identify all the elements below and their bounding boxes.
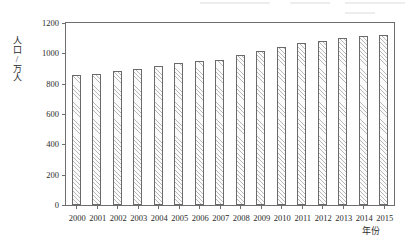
x-axis-title: 年份 (362, 226, 380, 237)
x-axis-tick-label: 2013 (335, 213, 352, 224)
x-axis-tick: 2014 (363, 205, 364, 209)
x-axis-tick: 2004 (158, 205, 159, 209)
x-axis-tick: 2003 (138, 205, 139, 209)
x-axis-tick: 2011 (302, 205, 303, 209)
x-axis-tick-label: 2014 (356, 213, 373, 224)
x-axis-tick: 2007 (220, 205, 221, 209)
bar (379, 35, 388, 205)
x-axis-tick-label: 2004 (151, 213, 168, 224)
x-axis-tick: 2012 (322, 205, 323, 209)
x-axis-tick-label: 2015 (376, 213, 393, 224)
x-axis-tick-label: 2002 (110, 213, 127, 224)
x-axis-tick: 2005 (179, 205, 180, 209)
bar (195, 61, 204, 205)
bar (359, 36, 368, 205)
bar (215, 60, 224, 205)
y-axis-tick-label: 200 (46, 170, 59, 181)
y-axis-tick-label: 800 (46, 79, 59, 90)
x-axis-tick: 2001 (97, 205, 98, 209)
y-axis-tick-label: 0 (55, 200, 59, 211)
y-axis-tick: 600 (62, 114, 66, 115)
x-axis-tick-label: 2001 (89, 213, 106, 224)
x-axis-tick-label: 2010 (274, 213, 291, 224)
x-axis-tick-label: 2006 (192, 213, 209, 224)
bar (113, 71, 122, 205)
y-axis-tick: 1000 (62, 53, 66, 54)
x-axis-tick: 2002 (117, 205, 118, 209)
x-axis-tick-label: 2009 (253, 213, 270, 224)
x-axis-tick: 2013 (343, 205, 344, 209)
bar (174, 63, 183, 205)
y-axis-tick-label: 400 (46, 139, 59, 150)
bar (338, 38, 347, 205)
bar (277, 47, 286, 205)
bar (92, 74, 101, 205)
y-axis-tick: 200 (62, 175, 66, 176)
x-axis-tick-label: 2008 (233, 213, 250, 224)
bar (236, 55, 245, 205)
x-axis-tick-label: 2005 (171, 213, 188, 224)
bar (256, 51, 265, 205)
y-axis-title: 人口/万人 (8, 36, 22, 82)
x-axis-tick-label: 2011 (294, 213, 311, 224)
x-axis-tick-label: 2007 (212, 213, 229, 224)
bar-chart-figure: 人口/万人 0200400600800100012002000200120022… (0, 0, 418, 247)
bar (297, 43, 306, 205)
x-axis-tick: 2009 (261, 205, 262, 209)
bar-series (66, 23, 394, 205)
x-axis-tick: 2000 (76, 205, 77, 209)
plot-area: 0200400600800100012002000200120022003200… (65, 22, 395, 206)
x-axis-tick-label: 2003 (130, 213, 147, 224)
x-axis-tick: 2006 (199, 205, 200, 209)
scan-artifact (345, 2, 405, 4)
bar (154, 66, 163, 205)
scan-artifact (200, 2, 270, 4)
bar (72, 75, 81, 205)
bar (133, 69, 142, 205)
x-axis-tick-label: 2012 (315, 213, 332, 224)
y-axis-tick-label: 600 (46, 109, 59, 120)
y-axis-tick-label: 1200 (42, 18, 59, 29)
y-axis-tick: 800 (62, 84, 66, 85)
y-axis-tick: 400 (62, 144, 66, 145)
x-axis-tick: 2008 (240, 205, 241, 209)
x-axis-tick: 2015 (384, 205, 385, 209)
y-axis-tick-label: 1000 (42, 48, 59, 59)
y-axis-tick: 0 (62, 205, 66, 206)
scan-artifact (345, 12, 375, 14)
x-axis-tick: 2010 (281, 205, 282, 209)
y-axis-tick: 1200 (62, 23, 66, 24)
scan-artifact (290, 2, 330, 4)
x-axis-tick-label: 2000 (69, 213, 86, 224)
bar (318, 41, 327, 205)
